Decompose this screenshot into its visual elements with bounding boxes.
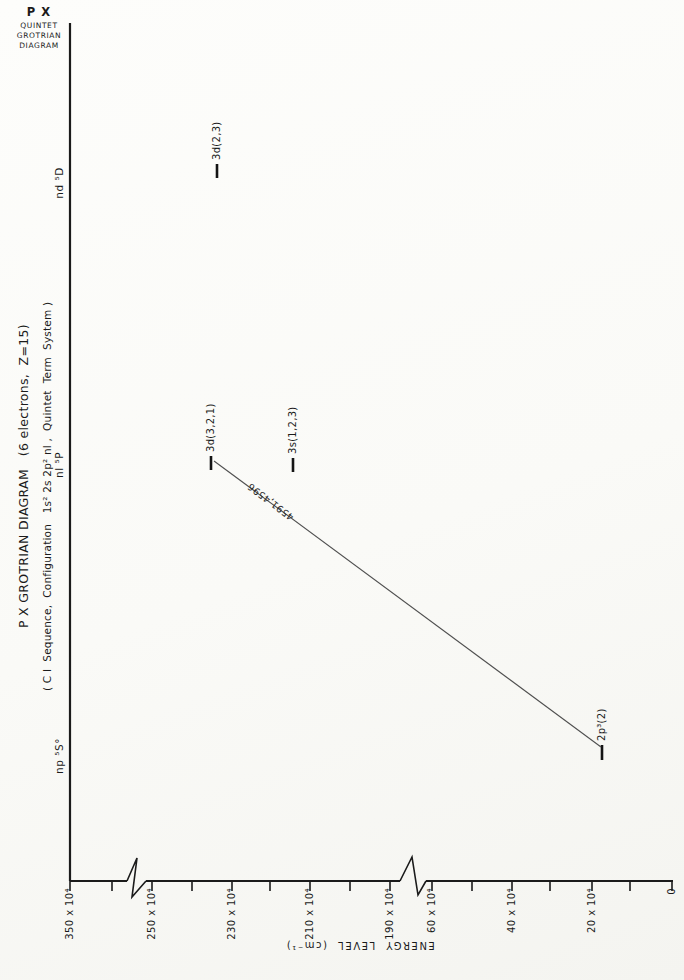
axis-tick-label: 210 x 10⁴	[304, 888, 316, 940]
level-label: 2p³(2)	[596, 708, 608, 741]
page-header-element: P X	[0, 6, 78, 18]
axis-tick-label: 60 x 10⁴	[426, 888, 438, 933]
axis-tick-label: 40 x 10⁴	[506, 888, 518, 933]
axis-tick-label: 0	[666, 888, 678, 895]
column-header: np ⁵S°	[53, 711, 65, 801]
page-header-grotrian: GROTRIAN	[0, 31, 78, 41]
column-header: nd ⁵D	[53, 138, 65, 228]
axis-tick-label: 190 x 10⁴	[384, 888, 396, 940]
axis-tick-label: 230 x 10⁴	[226, 888, 238, 940]
level-label: 3s(1,2,3)	[287, 406, 299, 454]
axis-break-upper	[127, 858, 146, 897]
axis-tick-label: 250 x 10⁴	[146, 888, 158, 940]
column-header: nl ⁵P	[53, 420, 65, 510]
page-header-block: P X QUINTET GROTRIAN DIAGRAM	[0, 6, 78, 51]
figure-title-line1: P X GROTRIAN DIAGRAM (6 electrons, Z=15)	[16, 324, 31, 628]
level-label: 3d(2,3)	[211, 121, 223, 160]
page-header-quintet: QUINTET	[0, 20, 78, 31]
grotrian-figure: P X GROTRIAN DIAGRAM (6 electrons, Z=15)…	[0, 0, 684, 980]
figure-lines	[0, 0, 684, 980]
axis-tick-label: 20 x 10⁴	[586, 888, 598, 933]
axis-break-lower	[400, 857, 426, 895]
axis-tick-label: 350 x 10⁴	[64, 888, 76, 940]
page-header-diagram: DIAGRAM	[0, 41, 78, 51]
scanned-page: P X QUINTET GROTRIAN DIAGRAM P X GROTRIA…	[0, 0, 684, 980]
figure-title-line2: ( C I Sequence, Configuration 1s² 2s 2p²…	[41, 302, 53, 691]
energy-axis-title: ENERGY LEVEL (cm⁻¹)	[225, 935, 495, 951]
level-label: 3d(3,2,1)	[205, 403, 217, 452]
axis-ticks	[70, 881, 672, 891]
